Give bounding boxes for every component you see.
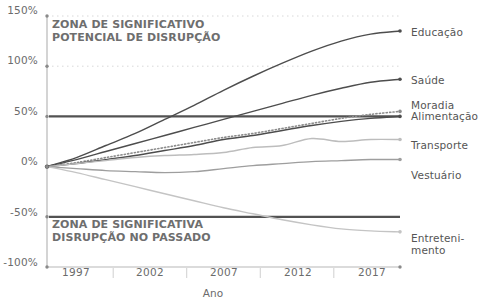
xtick-label-2007: 2007 — [187, 266, 261, 278]
series-line-sade — [47, 79, 400, 166]
x-axis-title: Ano — [183, 287, 243, 299]
ytick-label-0: 0% — [0, 155, 38, 167]
ytick-label-50: 50% — [0, 105, 38, 117]
series-endpoint-markers — [45, 29, 408, 233]
y-tick-mark — [45, 215, 48, 218]
zone-annotation-lower: ZONA DE SIGNIFICATIVA DISRUPÇÃO NO PASSA… — [52, 218, 211, 245]
ytick-label-neg100: -100% — [0, 256, 38, 268]
ytick-label-100: 100% — [0, 54, 38, 66]
ytick-label-neg50: -50% — [0, 206, 38, 218]
xtick-label-1997: 1997 — [39, 266, 113, 278]
y-tick-mark — [45, 14, 48, 17]
reference-lines-group — [49, 116, 400, 216]
series-label-educacao: Educação — [411, 26, 463, 38]
series-line-educao — [47, 31, 400, 167]
xtick-label-2002: 2002 — [113, 266, 187, 278]
ytick-label-150: 150% — [0, 4, 38, 16]
y-tick-mark — [45, 115, 48, 118]
series-label-entretenimento: Entreteni- mento — [411, 232, 464, 256]
xtick-label-2017: 2017 — [335, 266, 409, 278]
zone-annotation-upper: ZONA DE SIGNIFICATIVO POTENCIAL DE DISRU… — [52, 18, 220, 45]
y-tick-mark — [45, 165, 48, 168]
y-tick-mark — [45, 65, 48, 68]
xtick-label-2012: 2012 — [261, 266, 335, 278]
series-label-alimentacao: Alimentação — [411, 110, 478, 122]
series-label-vestuario: Vestuário — [411, 169, 462, 181]
series-label-transporte: Transporte — [411, 139, 468, 151]
series-paths-group — [47, 31, 400, 232]
series-label-saude: Saúde — [411, 74, 445, 86]
